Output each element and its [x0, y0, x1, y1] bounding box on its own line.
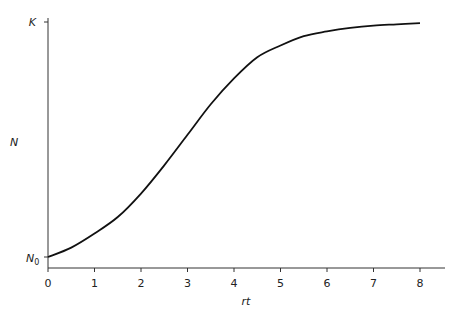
logistic-growth-chart: K N0 N 012345678 rt: [0, 0, 456, 317]
x-tick-label: 5: [277, 277, 284, 290]
y-axis-title: N: [10, 136, 18, 149]
x-tick-label: 4: [231, 277, 238, 290]
y-tick-label-k: K: [29, 16, 37, 29]
x-axis: 012345678 rt: [45, 268, 446, 308]
x-tick-label: 8: [417, 277, 424, 290]
x-tick-label: 2: [138, 277, 145, 290]
logistic-curve: [48, 23, 420, 257]
x-tick-label: 1: [91, 277, 98, 290]
x-tick-label: 3: [184, 277, 191, 290]
x-axis-title: rt: [242, 295, 252, 308]
x-tick-label: 7: [370, 277, 377, 290]
y-tick-label-n0: N0: [26, 252, 39, 267]
x-tick-label: 0: [45, 277, 52, 290]
y-axis: K N0 N: [10, 16, 48, 268]
x-tick-label: 6: [324, 277, 331, 290]
